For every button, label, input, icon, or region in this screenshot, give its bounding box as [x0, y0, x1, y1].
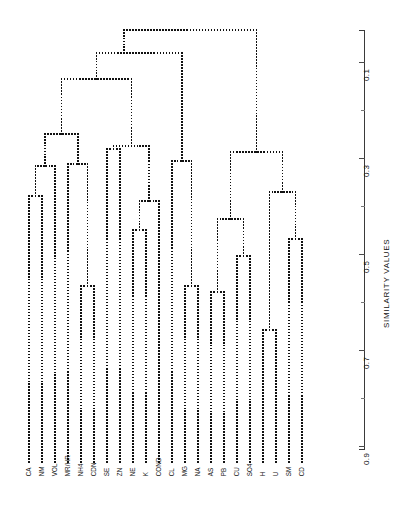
leaf-label: AS — [208, 468, 214, 477]
leaf-label: CU — [234, 467, 240, 476]
dendrogram-link-vertical — [191, 160, 193, 287]
dendrogram-link-vertical — [269, 191, 271, 331]
leaf-label: NM — [39, 466, 45, 476]
axis-cap-top — [359, 30, 365, 31]
leaf-label: CL — [169, 468, 175, 476]
dendrogram-link-horizontal — [96, 52, 183, 54]
dendrogram-link-vertical — [145, 229, 147, 463]
dendrogram-link-vertical — [301, 238, 303, 463]
dendrogram-link-vertical — [210, 291, 212, 463]
similarity-axis: 0.10.30.50.70.9 SIMILARITY VALUES — [345, 0, 405, 514]
dendrogram-link-vertical — [119, 148, 121, 463]
axis-tick-major — [359, 158, 365, 159]
dendrogram-link-vertical — [275, 329, 277, 463]
axis-tick-label: 0.3 — [363, 165, 371, 177]
dendrogram-link-vertical — [131, 78, 133, 147]
dendrogram-link-vertical — [236, 255, 238, 463]
dendrogram-tree — [0, 0, 345, 514]
dendrogram-plot-area: CANMVOLMR/HRNH4CDNSEZNNEKCONDCLMGNAASPBC… — [0, 0, 345, 514]
dendrogram-link-vertical — [106, 148, 108, 463]
leaf-label: MR/HR — [65, 455, 71, 476]
axis-tick-major — [359, 446, 365, 447]
axis-line — [364, 30, 365, 450]
leaf-label: VOL — [52, 463, 58, 476]
leaf-label: CDN — [91, 462, 97, 476]
dendrogram-link-vertical — [77, 133, 79, 165]
dendrogram-link-vertical — [262, 329, 264, 463]
leaf-label: SO4 — [247, 463, 253, 476]
axis-title: SIMILARITY VALUES — [383, 239, 391, 328]
dendrogram-link-vertical — [282, 151, 284, 193]
leaf-label: CA — [26, 467, 32, 476]
axis-tick-label: 0.7 — [363, 357, 371, 369]
dendrogram-link-vertical — [28, 195, 30, 463]
dendrogram-link-vertical — [139, 200, 141, 231]
dendrogram-link-vertical — [93, 285, 95, 463]
dendrogram-link-vertical — [132, 229, 134, 463]
axis-tick-label: 0.1 — [363, 69, 371, 81]
leaf-label: ZN — [117, 468, 123, 477]
axis-tick-minor — [361, 206, 365, 207]
dendrogram-link-vertical — [217, 218, 219, 293]
axis-tick-major — [359, 254, 365, 255]
leaf-label: PB — [221, 468, 227, 477]
axis-tick-label: 0.9 — [363, 453, 371, 465]
dendrogram-link-vertical — [256, 29, 258, 153]
dendrogram-link-vertical — [181, 52, 183, 162]
dendrogram-link-vertical — [96, 52, 98, 80]
dendrogram-link-vertical — [67, 163, 69, 463]
dendrogram-link-vertical — [184, 285, 186, 463]
dendrogram-link-vertical — [288, 238, 290, 463]
dendrogram-link-vertical — [171, 160, 173, 463]
dendrogram-link-vertical — [44, 133, 46, 167]
dendrogram-link-vertical — [35, 165, 37, 197]
leaf-label: MG — [182, 466, 188, 476]
dendrogram-figure: CANMVOLMR/HRNH4CDNSEZNNEKCONDCLMGNAASPBC… — [0, 0, 405, 514]
axis-tick-label: 0.5 — [363, 261, 371, 273]
leaf-label: NH4 — [78, 463, 84, 476]
axis-tick-major — [359, 350, 365, 351]
dendrogram-link-vertical — [123, 29, 125, 54]
leaf-label: NA — [195, 467, 201, 476]
axis-tick-major — [359, 62, 365, 63]
dendrogram-link-vertical — [158, 200, 160, 463]
leaf-label: SM — [286, 467, 292, 477]
axis-tick-minor — [361, 302, 365, 303]
leaf-label: NE — [130, 467, 136, 476]
dendrogram-link-vertical — [243, 218, 245, 257]
dendrogram-root-stub — [190, 29, 192, 31]
dendrogram-link-vertical — [41, 195, 43, 463]
dendrogram-link-vertical — [223, 291, 225, 463]
leaf-label: SE — [104, 468, 110, 477]
dendrogram-link-vertical — [295, 191, 297, 240]
leaf-label: COND — [156, 457, 162, 476]
dendrogram-link-vertical — [54, 165, 56, 463]
dendrogram-link-vertical — [197, 285, 199, 463]
dendrogram-link-vertical — [80, 285, 82, 463]
dendrogram-link-vertical — [61, 78, 63, 135]
dendrogram-link-vertical — [148, 145, 150, 202]
leaf-label: H — [260, 472, 266, 477]
dendrogram-link-vertical — [230, 151, 232, 220]
axis-tick-minor — [361, 110, 365, 111]
axis-tick-minor — [361, 398, 365, 399]
dendrogram-link-vertical — [249, 255, 251, 463]
leaf-label: K — [143, 472, 149, 476]
dendrogram-link-vertical — [87, 163, 89, 287]
leaf-label: CD — [299, 467, 305, 476]
axis-cap-bottom — [359, 449, 365, 450]
leaf-label: U — [273, 472, 279, 477]
